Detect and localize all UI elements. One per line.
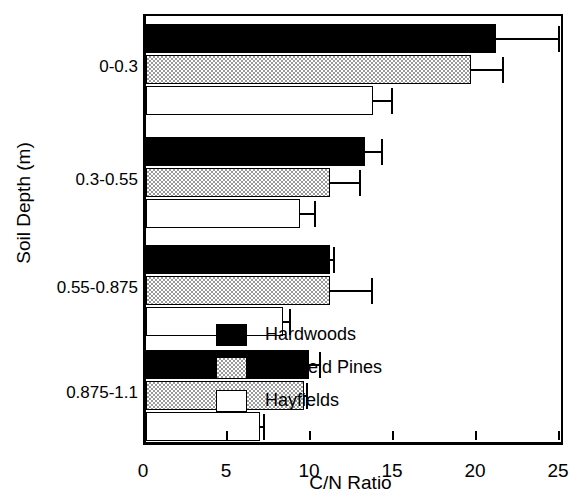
y-axis-tick-labels: 0-0.30.3-0.550.55-0.8750.875-1.1 [16, 0, 138, 503]
x-tick-mark-4 [475, 431, 477, 440]
legend-swatch-hayfields [216, 390, 247, 412]
legend-item-pines: Old-field Pines [216, 351, 406, 384]
legend-item-hardwoods: Hardwoods [216, 318, 406, 351]
y-tick-label-0: 0-0.3 [21, 57, 138, 77]
x-tick-mark-5 [558, 431, 560, 440]
x-tick-mark-0 [143, 431, 145, 440]
y-tick-label-3: 0.875-1.1 [21, 383, 138, 403]
x-tick-mark-1 [226, 431, 228, 440]
legend-swatch-hardwoods [216, 324, 247, 346]
y-tick-label-2: 0.55-0.875 [21, 278, 138, 298]
x-axis-ticks: 0510152025 [143, 14, 561, 503]
legend-label-pines: Old-field Pines [265, 357, 382, 378]
y-tick-label-1: 0.3-0.55 [21, 170, 138, 190]
x-tick-mark-3 [392, 431, 394, 440]
legend-label-hardwoods: Hardwoods [265, 324, 356, 345]
x-tick-mark-2 [309, 431, 311, 440]
legend-item-hayfields: Hayfields [216, 384, 406, 417]
chart-figure: Soil Depth (m) 0-0.30.3-0.550.55-0.8750.… [0, 0, 581, 503]
legend-label-hayfields: Hayfields [265, 390, 339, 411]
x-axis-title: C/N Ratio [143, 472, 558, 494]
legend-swatch-pines [216, 357, 247, 379]
legend: HardwoodsOld-field PinesHayfields [216, 318, 406, 417]
